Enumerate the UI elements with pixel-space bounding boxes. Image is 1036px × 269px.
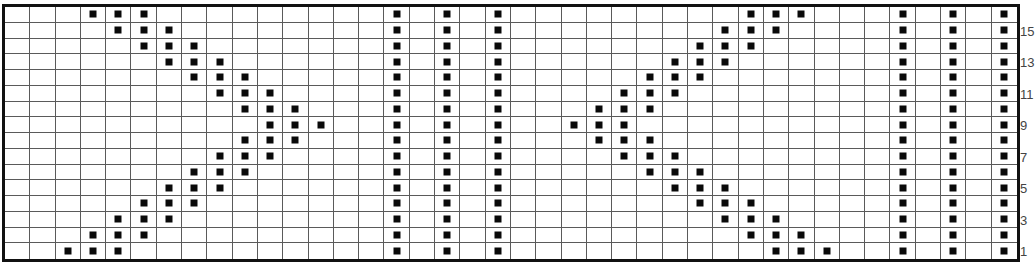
grid-cell [713,133,738,149]
filled-square-stitch-icon [722,42,729,49]
filled-square-stitch-icon [115,11,122,18]
grid-cell [941,243,966,259]
grid-cell [663,39,688,55]
grid-cell [410,228,435,244]
grid-cell [637,243,662,259]
filled-square-stitch-icon [722,184,729,191]
grid-cell [131,196,156,212]
filled-square-stitch-icon [393,42,400,49]
grid-cell [410,117,435,133]
grid-cell [815,70,840,86]
grid-cell [5,149,30,165]
grid-cell [56,23,81,39]
filled-square-stitch-icon [646,153,653,160]
grid-cell [992,133,1017,149]
grid-cell [511,196,536,212]
grid-cell [157,54,182,70]
grid-cell [435,228,460,244]
grid-cell [157,228,182,244]
row-number-label: 15 [1020,25,1034,38]
filled-square-stitch-icon [671,58,678,65]
filled-square-stitch-icon [823,248,830,255]
filled-square-stitch-icon [798,248,805,255]
grid-cell [131,39,156,55]
grid-cell [30,196,55,212]
filled-square-stitch-icon [444,153,451,160]
grid-cell [511,212,536,228]
grid-cell [283,165,308,181]
filled-square-stitch-icon [621,105,628,112]
grid-cell [309,133,334,149]
grid-cell [30,54,55,70]
grid-cell [992,212,1017,228]
grid-cell [30,165,55,181]
grid-cell [612,228,637,244]
grid-cell [131,86,156,102]
grid-cell [511,39,536,55]
grid-cell [739,23,764,39]
grid-cell [637,117,662,133]
grid-cell [916,54,941,70]
grid-cell [865,180,890,196]
grid-cell [890,39,915,55]
grid-cell [966,117,991,133]
grid-cell [941,23,966,39]
grid-cell [966,39,991,55]
filled-square-stitch-icon [621,137,628,144]
filled-square-stitch-icon [494,200,501,207]
filled-square-stitch-icon [444,200,451,207]
grid-cell [688,86,713,102]
filled-square-stitch-icon [444,231,451,238]
grid-cell [840,117,865,133]
grid-cell [157,7,182,23]
filled-square-stitch-icon [950,58,957,65]
grid-cell [663,149,688,165]
grid-cell [789,212,814,228]
filled-square-stitch-icon [1001,200,1008,207]
grid-cell [435,117,460,133]
grid-cell [890,180,915,196]
grid-cell [384,102,409,118]
filled-square-stitch-icon [697,200,704,207]
filled-square-stitch-icon [444,11,451,18]
grid-cell [637,149,662,165]
grid-cell [182,212,207,228]
grid-cell [131,23,156,39]
grid-cell [916,243,941,259]
grid-cell [587,228,612,244]
grid-cell [283,86,308,102]
grid-cell [486,243,511,259]
grid-cell [30,243,55,259]
grid-cell [637,70,662,86]
filled-square-stitch-icon [90,248,97,255]
grid-cell [359,165,384,181]
grid-cell [536,228,561,244]
grid-cell [157,117,182,133]
filled-square-stitch-icon [899,168,906,175]
grid-cell [258,243,283,259]
filled-square-stitch-icon [317,121,324,128]
grid-cell [56,54,81,70]
grid-cell [258,102,283,118]
grid-cell [486,86,511,102]
grid-cell [511,133,536,149]
grid-cell [359,196,384,212]
grid-cell [789,165,814,181]
grid-cell [5,133,30,149]
filled-square-stitch-icon [444,137,451,144]
grid-cell [410,212,435,228]
grid-cell [815,54,840,70]
grid-cell [486,165,511,181]
grid-cell [131,117,156,133]
filled-square-stitch-icon [267,121,274,128]
filled-square-stitch-icon [1001,153,1008,160]
grid-cell [764,39,789,55]
grid-cell [233,196,258,212]
grid-cell [56,39,81,55]
filled-square-stitch-icon [671,168,678,175]
grid-cell [56,149,81,165]
filled-square-stitch-icon [494,42,501,49]
grid-cell [460,165,485,181]
grid-cell [258,86,283,102]
filled-square-stitch-icon [646,90,653,97]
